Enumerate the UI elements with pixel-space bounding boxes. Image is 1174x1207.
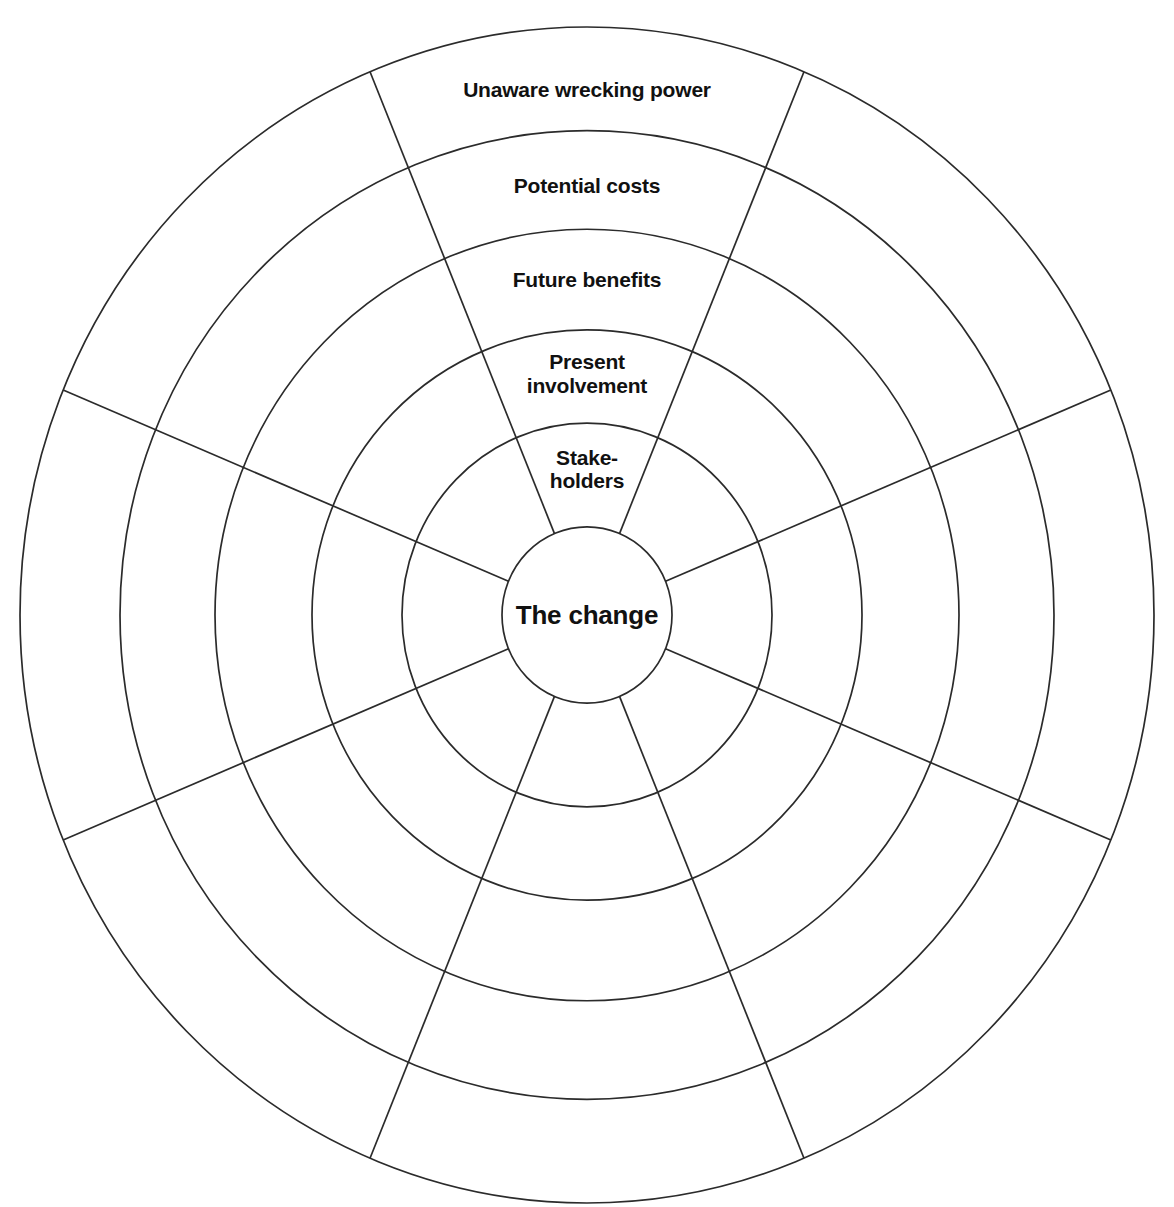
spoke-line-6 [63, 390, 508, 581]
spoke-line-7 [370, 72, 554, 534]
spoke-line-3 [620, 696, 804, 1158]
spoke-line-4 [370, 696, 554, 1158]
wheel-graphic [0, 0, 1174, 1207]
spoke-line-0 [620, 72, 804, 534]
spoke-line-5 [63, 649, 508, 840]
spoke-line-2 [666, 649, 1111, 840]
spoke-line-1 [666, 390, 1111, 581]
hub-circle [502, 527, 672, 703]
change-wheel-diagram: The changeStake- holdersPresent involvem… [0, 0, 1174, 1207]
